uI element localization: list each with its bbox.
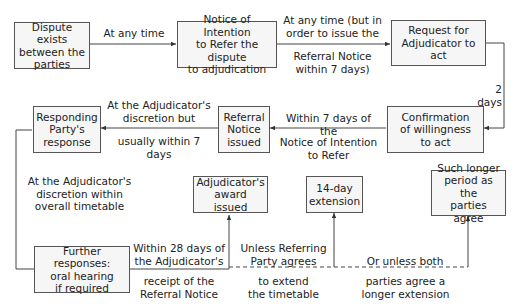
node-request-adjudicator: Request for Adjudicator to act — [391, 20, 486, 66]
node-responding-party-response: Responding Party's response — [33, 106, 101, 153]
label-receipt-referral-notice: receipt of the Referral Notice — [131, 275, 227, 300]
label-referral-within-7: Referral Notice within 7 days) — [280, 50, 385, 75]
node-label: Such longer period as the parties agree — [434, 162, 503, 225]
node-confirmation-willingness: Confirmation of willingness to act — [387, 106, 484, 153]
label-adjudicator-discretion-but: At the Adjudicator's discretion but — [104, 99, 214, 124]
node-notice-of-intention: Notice of Intention to Refer the dispute… — [177, 21, 277, 68]
node-label: Responding Party's response — [36, 111, 97, 149]
label-within-7-days-of: Within 7 days of the — [276, 112, 381, 137]
label-usually-within-7: usually within 7 days — [104, 135, 214, 160]
label-2-days: 2 days — [468, 83, 502, 108]
node-label: Referral Notice issued — [223, 111, 264, 149]
node-14-day-extension: 14-day extension — [306, 176, 363, 213]
node-label: Confirmation of willingness to act — [400, 111, 471, 149]
label-notice-of-intention-to-refer: Notice of Intention to Refer — [276, 136, 381, 161]
node-label: Dispute exists between the parties — [17, 21, 87, 71]
node-referral-notice-issued: Referral Notice issued — [218, 106, 270, 153]
node-adjudicator-award: Adjudicator's award issued — [193, 176, 268, 213]
label-or-unless-both: Or unless both — [360, 255, 450, 268]
label-at-any-time-but: At any time (but in order to issue the — [280, 14, 385, 39]
label-unless-referring-party: Unless Referring Party agrees — [236, 242, 331, 267]
node-label: Further responses: oral hearing if requi… — [37, 245, 127, 295]
node-further-responses: Further responses: oral hearing if requi… — [34, 246, 130, 293]
label-extend-timetable: to extend the timetable — [236, 275, 331, 300]
node-label: Adjudicator's award issued — [196, 176, 265, 214]
node-label: Notice of Intention to Refer the dispute… — [180, 13, 274, 76]
node-label: Request for Adjudicator to act — [394, 24, 483, 62]
label-at-any-time: At any time — [98, 27, 170, 40]
node-label: 14-day extension — [309, 182, 360, 207]
label-longer-extension: parties agree a longer extension — [358, 275, 453, 300]
label-discretion-overall-timetable: At the Adjudicator's discretion within o… — [22, 175, 137, 213]
node-dispute-exists: Dispute exists between the parties — [14, 22, 90, 69]
label-within-28-days: Within 28 days of the Adjudicator's — [131, 242, 227, 267]
node-longer-period: Such longer period as the parties agree — [431, 170, 506, 216]
